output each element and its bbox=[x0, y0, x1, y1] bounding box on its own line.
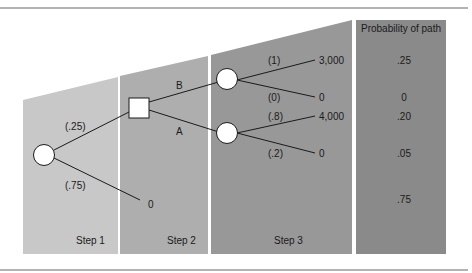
chance-node-1 bbox=[34, 145, 55, 166]
decision-upper-label: B bbox=[176, 80, 183, 91]
chanceA-lower-outcome: 0 bbox=[319, 148, 325, 159]
probability-value: .25 bbox=[397, 55, 411, 66]
chanceB-lower-outcome: 0 bbox=[319, 92, 325, 103]
decision-lower-label: A bbox=[176, 126, 183, 137]
probability-value: .75 bbox=[397, 194, 411, 205]
probability-value: .20 bbox=[397, 111, 411, 122]
step3-label: Step 3 bbox=[274, 235, 303, 246]
chance1-lower-outcome: 0 bbox=[148, 199, 154, 210]
chanceB-upper-prob: (1) bbox=[268, 55, 280, 66]
chanceA-upper-outcome: 4,000 bbox=[319, 111, 344, 122]
probability-header: Probability of path bbox=[361, 23, 441, 34]
step2-panel bbox=[120, 56, 208, 254]
chance1-upper-prob: (.25) bbox=[65, 121, 86, 132]
step1-panel bbox=[23, 77, 118, 254]
step2-label: Step 2 bbox=[167, 235, 196, 246]
chance-node-b bbox=[217, 69, 238, 90]
chance1-lower-prob: (.75) bbox=[65, 180, 86, 191]
probability-value: 0 bbox=[401, 92, 407, 103]
chanceA-lower-prob: (.2) bbox=[268, 148, 283, 159]
chanceB-lower-prob: (0) bbox=[268, 92, 280, 103]
decision-node bbox=[129, 98, 149, 118]
probability-value: .05 bbox=[397, 148, 411, 159]
chanceA-upper-prob: (.8) bbox=[268, 111, 283, 122]
chanceB-upper-outcome: 3,000 bbox=[319, 55, 344, 66]
chance-node-a bbox=[217, 123, 238, 144]
decision-tree-diagram: (.25) (.75) 0 B A (1) 3,000 (0) 0 (.8) 4… bbox=[0, 0, 472, 273]
step1-label: Step 1 bbox=[76, 235, 105, 246]
